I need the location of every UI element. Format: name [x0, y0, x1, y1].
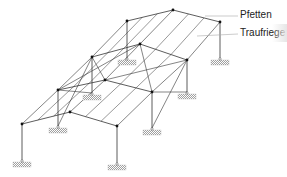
foundation-support-icon: [211, 60, 229, 65]
foundation-support-icon: [143, 130, 161, 135]
foundation-support-icon: [118, 60, 136, 65]
foundation-support-icon: [49, 128, 67, 133]
joint-node: [57, 89, 60, 92]
hinge-icon: [116, 163, 118, 165]
rafter: [127, 10, 173, 21]
foundation-support-icon: [13, 162, 31, 167]
joint-node: [69, 111, 72, 114]
foundation-support-icon: [108, 165, 126, 170]
rafter: [22, 112, 70, 124]
eave-beam: [152, 60, 187, 92]
rafter: [92, 44, 140, 57]
joint-node: [139, 43, 142, 46]
joint-node: [91, 56, 94, 59]
joint-node: [219, 21, 222, 24]
ridge-purlin: [140, 10, 173, 44]
hinge-icon: [151, 128, 153, 130]
foundation-support-icon: [178, 94, 196, 99]
eave-beam: [92, 21, 127, 57]
hinge-icon: [57, 126, 59, 128]
bracing: [92, 57, 105, 80]
rafter: [70, 112, 117, 126]
joint-node: [172, 9, 175, 12]
purlin: [121, 49, 156, 84]
joint-node: [151, 91, 154, 94]
hinge-icon: [91, 93, 93, 95]
label-pfetten: Pfetten: [240, 9, 272, 20]
foundation-support-icon: [83, 95, 101, 100]
bracing: [140, 44, 152, 92]
hinge-icon: [126, 58, 128, 60]
bracing: [105, 60, 187, 80]
label-fade: [272, 24, 287, 42]
bracing: [58, 44, 140, 90]
eave-beam: [187, 22, 220, 60]
eave-beam: [22, 90, 58, 124]
rafter: [105, 80, 152, 92]
purlin: [86, 84, 121, 117]
joint-node: [126, 20, 129, 23]
rafter: [58, 80, 105, 90]
purlin: [156, 14, 189, 49]
purlin: [171, 18, 204, 55]
joint-node: [104, 79, 107, 82]
purlin: [38, 87, 74, 120]
hinge-icon: [21, 160, 23, 162]
joint-node: [116, 125, 119, 128]
purlin: [101, 88, 136, 121]
leader-line: [197, 34, 238, 36]
joint-node: [186, 59, 189, 62]
joint-node: [21, 123, 24, 126]
eave-beam: [117, 92, 152, 126]
hinge-icon: [219, 58, 221, 60]
